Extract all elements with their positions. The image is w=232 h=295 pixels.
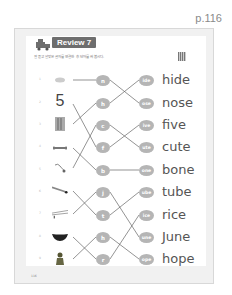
- letter-bubble[interactable]: b: [96, 165, 110, 176]
- row-number: 5: [39, 167, 41, 171]
- footer-page-number: 116: [31, 274, 37, 278]
- row-number: 6: [39, 189, 41, 193]
- ending-bubble[interactable]: ose: [139, 98, 154, 109]
- ending-bubble[interactable]: ube: [139, 187, 154, 198]
- ending-bubble[interactable]: ide: [139, 75, 154, 86]
- row-number: 3: [39, 122, 41, 126]
- letter-bubble[interactable]: h: [96, 98, 110, 109]
- row-number: 8: [39, 234, 41, 238]
- bone-picture: [52, 142, 68, 154]
- connection-lines: [0, 0, 232, 295]
- letter-bubble[interactable]: t: [96, 210, 110, 221]
- letter-bubble[interactable]: j: [96, 187, 110, 198]
- bowl-picture: [52, 231, 68, 243]
- row-number: 4: [39, 144, 41, 148]
- answer-word: nose: [162, 96, 193, 110]
- ending-bubble[interactable]: ope: [139, 254, 154, 265]
- letter-bubble[interactable]: h: [96, 232, 110, 243]
- handshake-picture: [52, 162, 68, 174]
- pen-picture: [52, 184, 68, 196]
- letter-bubble[interactable]: c: [96, 120, 110, 131]
- row-number: 2: [39, 100, 41, 104]
- chopsticks-picture: [52, 208, 68, 220]
- pencils-picture: [52, 118, 68, 130]
- answer-word: bone: [162, 163, 194, 177]
- row-number: 7: [39, 211, 41, 215]
- row-number: 9: [39, 256, 41, 260]
- ending-bubble[interactable]: ive: [139, 120, 154, 131]
- letter-bubble[interactable]: f: [96, 142, 110, 153]
- number-five-picture: 5: [52, 95, 68, 107]
- ending-bubble[interactable]: une: [139, 232, 154, 243]
- person-picture: [52, 252, 68, 264]
- answer-word: cute: [162, 140, 190, 154]
- answer-word: hide: [162, 73, 190, 87]
- letter-bubble[interactable]: n: [96, 75, 110, 86]
- row-number: 1: [39, 77, 41, 81]
- ending-bubble[interactable]: ute: [139, 142, 154, 153]
- answer-word: June: [162, 230, 190, 244]
- answer-word: rice: [162, 208, 186, 222]
- ending-bubble[interactable]: one: [139, 165, 154, 176]
- answer-word: tube: [162, 185, 192, 199]
- answer-word: hope: [162, 252, 194, 266]
- answer-word: five: [162, 118, 186, 132]
- letter-bubble[interactable]: r: [96, 254, 110, 265]
- ending-bubble[interactable]: ice: [139, 210, 154, 221]
- cup-picture: [52, 74, 68, 86]
